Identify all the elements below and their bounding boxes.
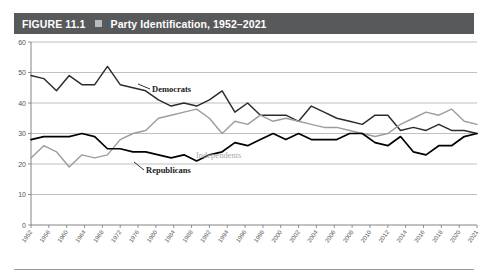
series-label-democrats: Democrats [152, 84, 192, 94]
x-axis-tick-2000: 2000 [271, 229, 284, 244]
x-axis-tick-2008: 2008 [342, 229, 355, 244]
x-axis-tick-2014: 2014 [395, 229, 408, 244]
leader-line-democrats [138, 84, 150, 89]
figure-title-bar: FIGURE 11.1 Party Identification, 1952–2… [14, 13, 474, 34]
chart-series-annotations: DemocratsRepublicansIndependents [134, 84, 241, 175]
series-line-democrats [31, 66, 477, 133]
y-axis-tick-0: 0 [22, 222, 26, 229]
series-label-independents: Independents [196, 150, 241, 160]
x-axis-tick-1956: 1956 [39, 229, 52, 244]
series-label-republicans: Republicans [146, 165, 192, 175]
x-axis-tick-2021: 2021 [467, 229, 480, 244]
x-axis-tick-2010: 2010 [360, 229, 373, 244]
chart-plot-area: 0102030405060 19521956196019641968197219… [0, 34, 488, 276]
figure-title-label: Party Identification, 1952–2021 [111, 18, 267, 30]
x-axis-tick-1976: 1976 [128, 229, 141, 244]
figure-number-label: FIGURE 11.1 [22, 18, 86, 30]
x-axis-tick-1960: 1960 [56, 229, 69, 244]
x-axis-tick-2002: 2002 [288, 229, 301, 244]
figure-container: FIGURE 11.1 Party Identification, 1952–2… [0, 0, 488, 276]
chart-gridlines [31, 42, 477, 195]
x-axis-tick-2004: 2004 [306, 229, 319, 244]
x-axis-tick-1984: 1984 [163, 229, 176, 244]
x-axis-tick-1996: 1996 [235, 229, 248, 244]
chart-x-tick-labels: 1952195619601964196819721976198019841988… [21, 225, 480, 244]
leader-line-republicans [134, 162, 144, 170]
x-axis-tick-1998: 1998 [253, 229, 266, 244]
x-axis-tick-2006: 2006 [324, 229, 337, 244]
x-axis-tick-2020: 2020 [449, 229, 462, 244]
chart-series-group [31, 66, 477, 167]
y-axis-tick-20: 20 [18, 161, 26, 168]
x-axis-tick-1994: 1994 [217, 229, 230, 244]
y-axis-tick-60: 60 [18, 39, 26, 46]
figure-bottom-rule [14, 269, 474, 270]
y-axis-tick-10: 10 [18, 191, 26, 198]
x-axis-tick-1968: 1968 [92, 229, 105, 244]
x-axis-tick-2012: 2012 [378, 229, 391, 244]
x-axis-tick-1952: 1952 [21, 229, 34, 244]
y-axis-tick-50: 50 [18, 69, 26, 76]
y-axis-tick-30: 30 [18, 130, 26, 137]
y-axis-tick-40: 40 [18, 100, 26, 107]
square-bullet-icon [95, 20, 102, 27]
series-line-independents [31, 109, 477, 167]
x-axis-tick-1992: 1992 [199, 229, 212, 244]
party-identification-line-chart: 0102030405060 19521956196019641968197219… [0, 34, 488, 276]
x-axis-tick-2018: 2018 [431, 229, 444, 244]
x-axis-tick-1964: 1964 [74, 229, 87, 244]
x-axis-tick-1980: 1980 [146, 229, 159, 244]
x-axis-tick-2016: 2016 [413, 229, 426, 244]
x-axis-tick-1972: 1972 [110, 229, 123, 244]
chart-y-tick-labels: 0102030405060 [18, 39, 31, 229]
x-axis-tick-1988: 1988 [181, 229, 194, 244]
